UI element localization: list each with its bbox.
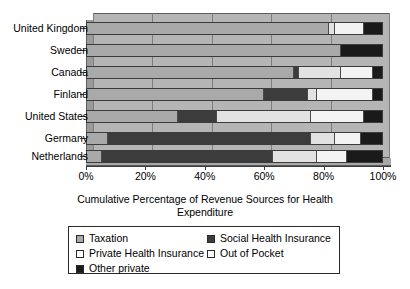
category-label: Finland <box>0 89 88 100</box>
bar-segment <box>87 89 264 100</box>
bar-track <box>86 22 383 35</box>
legend-item[interactable]: Social Health Insurance <box>207 232 338 245</box>
bar-track <box>86 66 383 79</box>
bar-segment <box>335 133 362 144</box>
x-tick-label: 0% <box>66 170 106 182</box>
bar-segment <box>317 89 373 100</box>
bar-segment <box>273 151 317 162</box>
legend-item[interactable]: Out of Pocket <box>207 247 338 260</box>
legend-item[interactable]: Other private <box>76 262 207 275</box>
bar-segment <box>335 23 365 34</box>
bar-segment <box>87 23 329 34</box>
x-tick-label: 20% <box>125 170 165 182</box>
bar-segment <box>87 151 102 162</box>
legend-swatch-icon <box>76 235 84 243</box>
legend-swatch-icon <box>207 235 215 243</box>
category-label: Canada <box>0 67 88 78</box>
bar-segment <box>311 111 364 122</box>
bar-track <box>86 110 383 123</box>
bar-segment <box>341 45 382 56</box>
legend-label: Private Health Insurance <box>89 247 204 260</box>
bar-segment <box>364 111 382 122</box>
legend-label: Other private <box>89 262 150 275</box>
bar-segment <box>308 89 317 100</box>
bar-segment <box>311 133 335 144</box>
legend-item[interactable]: Taxation <box>76 232 207 245</box>
bar-segment <box>87 133 108 144</box>
bar-segment <box>364 23 382 34</box>
plot-area: United KingdomSwedenCanadaFinlandUnited … <box>0 0 410 180</box>
bar-segment <box>373 67 382 78</box>
category-label: Netherlands <box>0 151 88 162</box>
x-tick-label: 60% <box>244 170 284 182</box>
legend-items: TaxationSocial Health InsurancePrivate H… <box>76 232 338 277</box>
legend-label: Taxation <box>89 232 128 245</box>
bar-segment <box>87 45 341 56</box>
category-label: United Kingdom <box>0 23 88 34</box>
category-label: Sweden <box>0 45 88 56</box>
chart-container: United KingdomSwedenCanadaFinlandUnited … <box>0 0 410 289</box>
x-axis-title: Cumulative Percentage of Revenue Sources… <box>55 193 355 219</box>
legend-swatch-icon <box>76 265 84 273</box>
legend-swatch-icon <box>76 250 84 258</box>
bar-segment <box>373 89 382 100</box>
bar-segment <box>87 111 178 122</box>
x-tick-label: 100% <box>363 170 403 182</box>
x-tick-label: 40% <box>185 170 225 182</box>
bar-segment <box>341 67 373 78</box>
bar-segment <box>299 67 340 78</box>
legend-swatch-icon <box>207 250 215 258</box>
legend-label: Social Health Insurance <box>220 232 331 245</box>
bar-segment <box>317 151 347 162</box>
legend-item[interactable]: Private Health Insurance <box>76 247 207 260</box>
bar-segment <box>102 151 273 162</box>
bar-track <box>86 88 383 101</box>
legend: TaxationSocial Health InsurancePrivate H… <box>68 226 340 274</box>
category-label: Germany <box>0 133 88 144</box>
bar-track <box>86 44 383 57</box>
bar-segment <box>178 111 216 122</box>
bar-track <box>86 150 383 163</box>
bar-segment <box>264 89 308 100</box>
bar-segment <box>347 151 382 162</box>
bar-segment <box>217 111 311 122</box>
x-tick-label: 80% <box>304 170 344 182</box>
bar-segment <box>87 67 294 78</box>
x-axis-line <box>86 166 391 167</box>
bar-track <box>86 132 383 145</box>
category-label: United States <box>0 111 88 122</box>
bar-segment <box>108 133 312 144</box>
bar-segment <box>361 133 382 144</box>
legend-label: Out of Pocket <box>220 247 284 260</box>
